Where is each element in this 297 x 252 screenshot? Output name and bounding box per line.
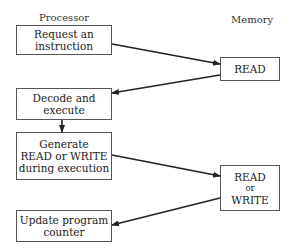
box-text-line: Update program bbox=[20, 214, 108, 226]
box-text-line: instruction bbox=[35, 40, 93, 52]
box-text-line: READ bbox=[234, 171, 266, 183]
box-text-line: execute bbox=[43, 104, 84, 116]
arrow-read-to-decode bbox=[112, 75, 220, 93]
memory-column-label: Memory bbox=[231, 14, 273, 26]
box-text-line: Generate bbox=[39, 138, 88, 150]
arrow-generate-to-readwrite bbox=[112, 155, 220, 176]
update-program-counter-box: Update program counter bbox=[16, 210, 112, 242]
generate-read-write-box: Generate READ or WRITE during execution bbox=[16, 132, 112, 180]
request-instruction-box: Request an instruction bbox=[16, 25, 112, 55]
box-text-line: Decode and bbox=[33, 92, 96, 104]
decode-execute-box: Decode and execute bbox=[16, 88, 112, 120]
box-text-line: READ bbox=[234, 63, 266, 75]
box-text-line: during execution bbox=[19, 162, 109, 174]
box-text-line: WRITE bbox=[231, 194, 269, 206]
memory-read-or-write-box: READ or WRITE bbox=[220, 165, 280, 211]
arrow-request-to-read bbox=[112, 44, 220, 64]
arrow-readwrite-to-update bbox=[112, 198, 220, 225]
memory-read-box: READ bbox=[220, 57, 280, 81]
box-text-line: READ or WRITE bbox=[20, 150, 107, 162]
box-text-line: counter bbox=[43, 226, 84, 238]
box-text-line: or bbox=[245, 183, 254, 194]
processor-column-label: Processor bbox=[39, 12, 89, 24]
box-text-line: Request an bbox=[34, 28, 94, 40]
